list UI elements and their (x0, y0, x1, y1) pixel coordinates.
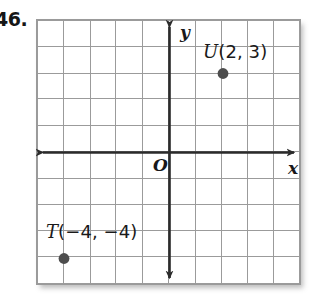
point-coords-u: (2, 3) (218, 41, 267, 62)
origin-label: O (153, 155, 168, 175)
x-axis-label: x (288, 158, 298, 178)
y-axis-label: y (180, 22, 190, 42)
coordinate-plane-figure: 46. (0, 0, 316, 305)
point-name-u: U (203, 41, 218, 62)
point-name-t: T (46, 221, 58, 242)
problem-number: 46. (0, 8, 27, 30)
point-label-t: T(−4, −4) (46, 221, 137, 242)
point-label-u: U(2, 3) (203, 41, 267, 62)
point-coords-t: (−4, −4) (58, 221, 137, 242)
